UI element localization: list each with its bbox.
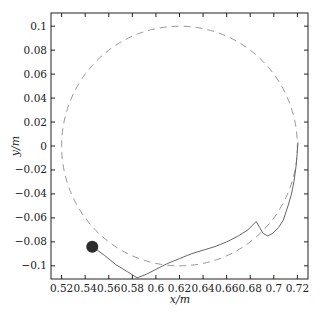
tick-labels: 0.520.540.560.580.60.620.640.660.680.70.… xyxy=(15,20,309,294)
y-tick-label: 0.04 xyxy=(24,92,48,104)
y-tick-label: −0.1 xyxy=(22,259,48,271)
y-tick-label: 0.06 xyxy=(24,68,48,80)
x-tick-label: 0.68 xyxy=(239,282,262,294)
reference-circle-dashed xyxy=(62,26,298,266)
y-tick-label: 0.02 xyxy=(24,116,47,128)
x-tick-label: 0.72 xyxy=(286,282,309,294)
x-tick-label: 0.58 xyxy=(121,282,144,294)
x-tick-label: 0.52 xyxy=(50,282,73,294)
y-tick-label: −0.08 xyxy=(15,235,47,247)
y-tick-label: −0.06 xyxy=(15,211,47,223)
axes-frame xyxy=(51,13,308,279)
y-tick-label: −0.04 xyxy=(15,187,47,199)
y-tick-label: 0.1 xyxy=(30,20,47,32)
x-tick-label: 0.6 xyxy=(148,282,165,294)
trajectory-chart: 0.520.540.560.580.60.620.640.660.680.70.… xyxy=(0,0,322,314)
y-tick-label: 0 xyxy=(40,140,47,152)
x-tick-label: 0.56 xyxy=(97,282,121,294)
x-tick-label: 0.66 xyxy=(215,282,239,294)
x-axis-label: x/m xyxy=(170,293,190,306)
start-point-marker xyxy=(86,241,98,253)
x-tick-label: 0.7 xyxy=(265,282,282,294)
series-layer xyxy=(62,26,298,278)
y-tick-label: 0.08 xyxy=(24,44,47,56)
x-tick-label: 0.54 xyxy=(73,282,97,294)
y-tick-label: −0.02 xyxy=(15,163,47,175)
trajectory-line xyxy=(92,142,298,277)
y-axis-label: y/m xyxy=(9,136,22,157)
axis-ticks xyxy=(51,13,308,279)
x-tick-label: 0.64 xyxy=(191,282,215,294)
